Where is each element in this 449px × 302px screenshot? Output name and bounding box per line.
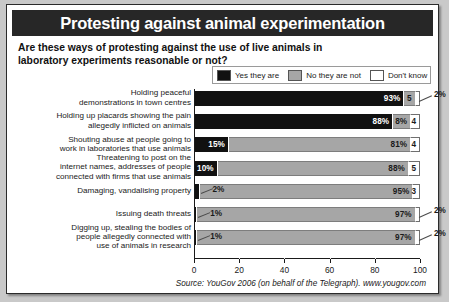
legend-item-yes: Yes they are: [217, 70, 279, 81]
legend-swatch-dk: [370, 70, 384, 81]
segment-yes-value: 88%: [373, 117, 392, 126]
segment-no[interactable]: 97%: [197, 207, 415, 222]
segment-no-value: 97%: [395, 233, 414, 242]
x-tick-40: [284, 259, 285, 263]
segment-dk[interactable]: [416, 230, 421, 245]
x-tick-label-0: 0: [192, 265, 197, 275]
segment-no[interactable]: 95%: [200, 184, 414, 199]
legend-label-yes: Yes they are: [235, 71, 279, 80]
category-label: Holding peacefuldemonstrations in town c…: [19, 88, 191, 107]
callout-label-dk: 2%: [434, 206, 446, 215]
category-label-line: use of animals in research: [19, 241, 191, 250]
category-label-line: internet names, addresses of people: [19, 162, 191, 171]
callout-leader-dk: [419, 211, 432, 218]
segment-dk[interactable]: 5: [409, 161, 420, 176]
segment-no[interactable]: 88%: [218, 161, 409, 176]
category-label-line: demonstrations in town centres: [19, 98, 191, 107]
callout-leader-dk: [419, 234, 432, 241]
segment-no-value: 97%: [395, 210, 414, 219]
category-label-line: connected with firms that use animals: [19, 172, 191, 181]
chart-question: Are these ways of protesting against the…: [18, 42, 358, 67]
x-tick-label-80: 80: [370, 265, 379, 275]
bars-area: 02040608010093%52%88%8%415%81%410%88%595…: [194, 89, 430, 259]
x-tick-label-100: 100: [413, 265, 427, 275]
category-label: Threatening to post on theinternet names…: [19, 153, 191, 181]
x-tick-20: [239, 259, 240, 263]
bar-row[interactable]: 95%3: [195, 184, 420, 199]
segment-dk-value: 3: [411, 187, 419, 196]
segment-no-value: 95%: [393, 187, 412, 196]
segment-dk-value: 4: [411, 140, 419, 149]
bar-row[interactable]: 97%: [195, 207, 420, 222]
segment-yes-value: 93%: [384, 94, 403, 103]
callout-label-dk: 2%: [434, 229, 446, 238]
category-label-line: Issuing death threats: [19, 209, 191, 218]
callout-label-dk: 2%: [434, 90, 446, 99]
category-label-line: work in laboratories that use animals: [19, 144, 191, 153]
category-labels: Holding peacefuldemonstrations in town c…: [18, 89, 194, 259]
category-label-line: Shouting abuse at people going to: [19, 135, 191, 144]
segment-dk[interactable]: [416, 91, 421, 106]
segment-yes[interactable]: 93%: [195, 91, 404, 106]
category-label-line: allegedly inflicted on animals: [19, 121, 191, 130]
callout-leader-dk: [419, 95, 432, 102]
category-label: Shouting abuse at people going towork in…: [19, 135, 191, 154]
category-label-line: Digging up, stealing the bodies of: [19, 223, 191, 232]
x-tick-0: [194, 259, 195, 263]
segment-yes[interactable]: 88%: [195, 114, 393, 129]
x-axis-line: [194, 258, 420, 259]
legend-label-no: No they are not: [306, 71, 361, 80]
category-label: Damaging, vandalising property: [19, 186, 191, 195]
segment-yes[interactable]: 15%: [195, 137, 229, 152]
segment-no[interactable]: 8%: [393, 114, 411, 129]
x-tick-60: [330, 259, 331, 263]
x-tick-100: [420, 259, 421, 263]
source-note: Source: YouGov 2006 (on behalf of the Te…: [18, 279, 430, 288]
segment-dk-value: 4: [411, 117, 419, 126]
category-label: Holding up placards showing the painalle…: [19, 111, 191, 130]
segment-dk[interactable]: [416, 207, 421, 222]
segment-yes-value: 15%: [208, 140, 227, 149]
gridline-100: [420, 89, 421, 259]
segment-no-value: 8%: [395, 117, 410, 126]
category-label-line: Damaging, vandalising property: [19, 186, 191, 195]
category-label-line: Holding up placards showing the pain: [19, 111, 191, 120]
segment-no-value: 88%: [388, 164, 407, 173]
callout-label-yes: 1%: [210, 232, 222, 241]
legend-swatch-yes: [217, 70, 231, 81]
category-label-line: people allegedly connected with: [19, 232, 191, 241]
callout-label-yes: 2%: [213, 185, 225, 194]
segment-dk[interactable]: 4: [411, 137, 420, 152]
segment-dk[interactable]: 3: [413, 184, 420, 199]
category-label-line: Holding peaceful: [19, 88, 191, 97]
segment-no-value: 5: [407, 94, 415, 103]
segment-yes-value: 10%: [197, 164, 216, 173]
segment-dk[interactable]: 4: [411, 114, 420, 129]
bar-row[interactable]: 88%8%4: [195, 114, 420, 129]
x-tick-label-60: 60: [325, 265, 334, 275]
segment-no[interactable]: 81%: [229, 137, 411, 152]
legend-label-dk: Don't know: [388, 71, 427, 80]
chart-legend: Yes they areNo they are notDon't know: [212, 66, 431, 84]
callout-label-yes: 1%: [210, 209, 222, 218]
bar-row[interactable]: 97%: [195, 230, 420, 245]
legend-item-dk: Don't know: [370, 70, 427, 81]
x-tick-label-40: 40: [280, 265, 289, 275]
bar-row[interactable]: 10%88%5: [195, 161, 420, 176]
bar-row[interactable]: 15%81%4: [195, 137, 420, 152]
category-label-line: Threatening to post on the: [19, 153, 191, 162]
legend-item-no: No they are not: [288, 70, 361, 81]
segment-no[interactable]: 5: [404, 91, 415, 106]
segment-dk-value: 5: [411, 164, 419, 173]
chart-plot-area: Holding peacefuldemonstrations in town c…: [18, 89, 430, 271]
segment-no[interactable]: 97%: [197, 230, 415, 245]
page-title: Protesting against animal experimentatio…: [12, 10, 433, 36]
category-label: Digging up, stealing the bodies ofpeople…: [19, 223, 191, 251]
chart-card: Protesting against animal experimentatio…: [6, 4, 439, 294]
category-label: Issuing death threats: [19, 209, 191, 218]
segment-no-value: 81%: [391, 140, 410, 149]
legend-swatch-no: [288, 70, 302, 81]
bar-row[interactable]: 93%5: [195, 91, 420, 106]
chart-page: Protesting against animal experimentatio…: [0, 0, 449, 302]
segment-yes[interactable]: 10%: [195, 161, 218, 176]
